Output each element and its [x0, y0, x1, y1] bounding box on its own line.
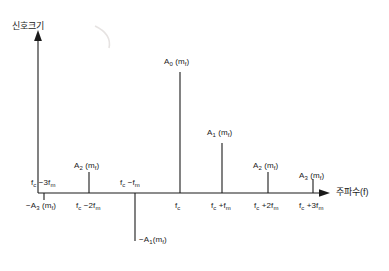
fl2-p2: −2f [81, 201, 95, 210]
freq-label-fc-minus-fm: fc −fm [120, 179, 140, 187]
amp-neg-a3-base: −A [26, 201, 36, 210]
fl2-s1: c [78, 205, 81, 211]
fl7-p2: +3f [304, 201, 318, 210]
fl5-s2: m [226, 205, 231, 211]
amp-a3r-sub: 3 [304, 175, 307, 181]
fm-spectrum-figure: 신호크기 주파수(f) −A3 (mf) A2 (mf) −A1(mf) A0 … [0, 0, 389, 271]
freq-label-fc-plus-fm: fc +fm [211, 202, 231, 210]
fl3-s1: c [122, 182, 125, 188]
fl1-s2: m [50, 182, 55, 188]
fl1-p2: −3f [36, 178, 50, 187]
fl3-p2: −f [125, 178, 134, 187]
spectral-lines [44, 72, 313, 241]
fl6-p2: +2f [259, 201, 273, 210]
freq-label-fc: fc [175, 202, 180, 210]
fl7-s1: c [301, 205, 304, 211]
amp-neg-a3-argclose: ) [53, 201, 56, 210]
amp-a0-argsub: f [185, 61, 187, 67]
y-axis-arrowhead [34, 30, 42, 41]
amplitude-label-a1-right: A1 (mf) [207, 129, 232, 137]
x-axis-title: 주파수(f) [336, 188, 369, 197]
fl6-s1: c [256, 205, 259, 211]
fl2-s2: m [95, 205, 100, 211]
amp-a2l-sub: 2 [79, 165, 82, 171]
amp-a1r-sub: 1 [212, 132, 215, 138]
amp-neg-a1-sub: 1 [149, 239, 152, 245]
fl6-s2: m [273, 205, 278, 211]
amp-a1r-argopen: (m [216, 128, 228, 137]
fl5-p2: +f [216, 201, 225, 210]
amplitude-label-a2-right: A2 (mf) [253, 162, 278, 170]
amp-a2r-argopen: (m [262, 161, 274, 170]
amp-a1r-argsub: f [228, 132, 230, 138]
freq-label-fc-minus-3fm: fc −3fm [31, 179, 56, 187]
fl7-s2: m [318, 205, 323, 211]
amp-a0-sub: 0 [169, 61, 172, 67]
amp-neg-a3-argopen: (m [40, 201, 52, 210]
amp-a3r-argopen: (m [308, 171, 320, 180]
fl5-s1: c [213, 205, 216, 211]
amp-neg-a3-sub: 3 [36, 205, 39, 211]
amp-a2r-sub: 2 [258, 165, 261, 171]
x-axis [38, 189, 330, 197]
y-axis [34, 30, 42, 193]
freq-label-fc-plus-2fm: fc +2fm [254, 202, 279, 210]
amplitude-label-neg-a3: −A3 (mf) [26, 202, 56, 210]
fl4-s1: c [177, 205, 180, 211]
amp-a2l-argsub: f [95, 165, 97, 171]
freq-label-fc-minus-2fm: fc −2fm [76, 202, 101, 210]
fl3-s2: m [135, 182, 140, 188]
amplitude-label-a0: A0 (mf) [164, 58, 189, 66]
spectrum-plot-svg [0, 0, 389, 271]
amp-neg-a1-argclose: ) [164, 235, 167, 244]
freq-label-fc-plus-3fm: fc +3fm [299, 202, 324, 210]
amplitude-label-a3-right: A3 (mf) [299, 172, 324, 180]
amp-a2l-argopen: (m [83, 161, 95, 170]
scan-smudge-artifact [95, 26, 109, 48]
amp-neg-a1-argsub: f [162, 239, 164, 245]
y-axis-title: 신호크기 [12, 22, 44, 31]
amp-neg-a1-argopen: (m [153, 235, 163, 244]
amplitude-label-a2-left: A2 (mf) [74, 162, 99, 170]
amp-a2r-argsub: f [274, 165, 276, 171]
x-axis-arrowhead [319, 189, 330, 197]
amplitude-label-neg-a1: −A1(mf) [139, 236, 167, 244]
amp-a3r-argsub: f [320, 175, 322, 181]
amp-neg-a1-base: −A [139, 235, 149, 244]
amp-a0-argopen: (m [173, 57, 185, 66]
fl1-s1: c [33, 182, 36, 188]
